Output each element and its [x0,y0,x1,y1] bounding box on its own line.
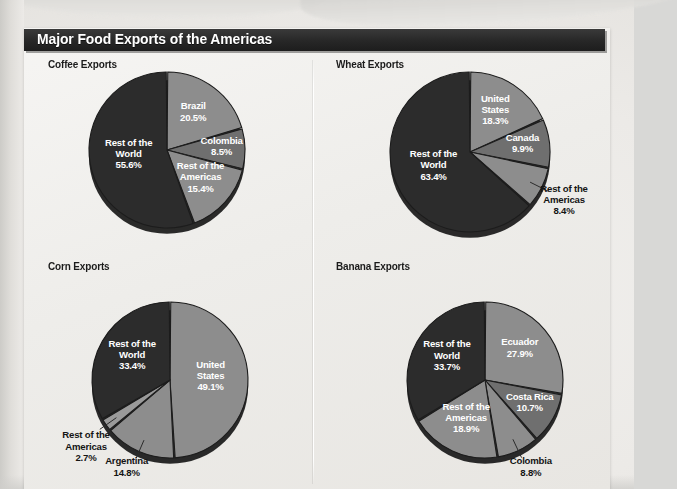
figure-title-bar: Major Food Exports of the Americas [24,29,605,51]
pie-svg-banana: Ecuador27.9%Costa Rica10.7%Colombia8.8%R… [328,260,610,482]
pie-label-corn-1: Argentina14.8% [105,455,149,477]
pie-chart-coffee[interactable]: Brazil20.5%Colombia8.5%Rest of theAmeric… [40,58,322,280]
pie-svg-wheat: UnitedStates18.3%Canada9.9%Rest of theAm… [328,58,610,280]
pie-label-corn-2: Rest of theAmericas2.7% [62,429,109,462]
chart-panel-coffee: Coffee Exports Brazil20.5%Colombia8.5%Re… [40,58,310,258]
pie-chart-wheat[interactable]: UnitedStates18.3%Canada9.9%Rest of theAm… [328,58,610,280]
pie-label-coffee-0: Brazil20.5% [180,100,207,122]
chart-panel-wheat: Wheat Exports UnitedStates18.3%Canada9.9… [328,58,598,258]
pie-label-wheat-0: UnitedStates18.3% [481,93,510,126]
chart-panel-banana: Banana Exports Ecuador27.9%Costa Rica10.… [328,260,598,460]
pie-chart-corn[interactable]: UnitedStates49.1%Argentina14.8%Rest of t… [40,260,322,482]
pie-svg-coffee: Brazil20.5%Colombia8.5%Rest of theAmeric… [40,58,322,280]
pie-label-corn-0: UnitedStates49.1% [196,359,225,392]
pie-label-wheat-2: Rest of theAmericas8.4% [540,183,587,216]
figure-card: Major Food Exports of the Americas Coffe… [24,28,610,489]
page-left-edge-shadow [0,0,24,489]
chart-panel-corn: Corn Exports UnitedStates49.1%Argentina1… [40,260,310,460]
page-title: Major Food Exports of the Americas [37,31,272,47]
pie-svg-corn: UnitedStates49.1%Argentina14.8%Rest of t… [40,260,322,482]
pie-chart-banana[interactable]: Ecuador27.9%Costa Rica10.7%Colombia8.8%R… [328,260,610,482]
pie-label-banana-2: Colombia8.8% [510,455,553,477]
